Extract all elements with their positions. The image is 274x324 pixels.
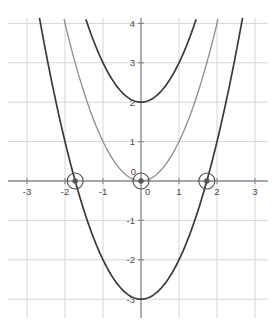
x-tick-label: -1 (99, 186, 107, 197)
plot-background (0, 0, 274, 324)
x-tick-label: 1 (176, 186, 181, 197)
graph-canvas: -3-2-1012343210-1-2-3 (0, 0, 274, 324)
y-tick-label: 1 (130, 136, 135, 147)
y-tick-label: -2 (127, 254, 135, 265)
y-tick-label: 3 (130, 57, 135, 68)
y-tick-label: -1 (127, 215, 135, 226)
y-tick-label: 0 (131, 166, 136, 177)
point-marker-dot (138, 178, 143, 183)
x-tick-label: 2 (214, 186, 219, 197)
x-tick-label: 0 (145, 186, 150, 197)
x-tick-label: -2 (61, 186, 69, 197)
y-tick-label: 2 (130, 97, 135, 108)
x-tick-label: 3 (252, 186, 257, 197)
y-tick-label: 4 (130, 18, 135, 29)
point-marker-dot (72, 178, 77, 183)
x-tick-label: -3 (23, 186, 31, 197)
point-marker-dot (204, 178, 209, 183)
y-tick-label: -3 (127, 294, 135, 305)
parabola-graph: -3-2-1012343210-1-2-3 (0, 0, 274, 324)
